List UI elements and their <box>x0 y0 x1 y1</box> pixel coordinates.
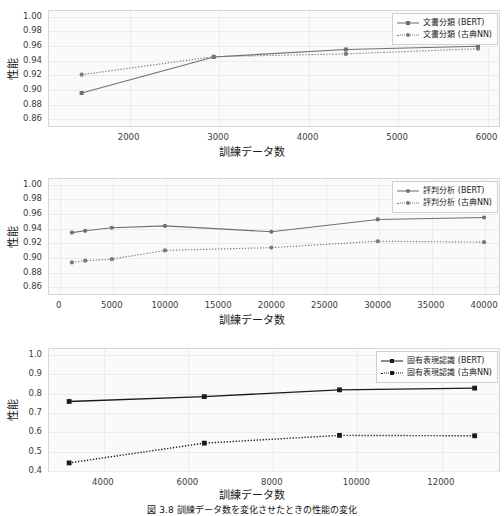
legend-item[interactable]: 固有表現認識 (BERT) <box>381 355 492 367</box>
data-point-marker <box>482 215 486 219</box>
data-point-marker <box>482 240 486 244</box>
data-point-marker <box>269 230 273 234</box>
data-point-marker <box>80 73 84 77</box>
data-point-marker <box>67 399 72 404</box>
series-line <box>69 388 475 401</box>
legend-label: 評判分析 (古典NN) <box>423 197 492 209</box>
chart-panel-doc-classification: 0.860.880.900.920.940.960.981.0020003000… <box>0 0 504 163</box>
chart-legend[interactable]: 固有表現認識 (BERT)固有表現認識 (古典NN) <box>376 351 498 383</box>
legend-item[interactable]: 固有表現認識 (古典NN) <box>381 367 492 379</box>
series-line <box>69 435 475 463</box>
chart-panel-sentiment-analysis: 0.860.880.900.920.940.960.981.0005000100… <box>0 168 504 331</box>
chart-legend[interactable]: 評判分析 (BERT)評判分析 (古典NN) <box>392 181 498 213</box>
data-point-marker <box>110 226 114 230</box>
legend-item[interactable]: 文書分類 (古典NN) <box>397 29 492 41</box>
legend-swatch <box>381 356 403 366</box>
series-line <box>72 217 484 232</box>
data-point-marker <box>472 386 477 391</box>
data-point-marker <box>337 387 342 392</box>
data-point-marker <box>83 259 87 263</box>
series-line <box>72 241 484 262</box>
data-point-marker <box>163 248 167 252</box>
data-point-marker <box>70 231 74 235</box>
data-point-marker <box>163 224 167 228</box>
data-point-marker <box>344 52 348 56</box>
data-point-marker <box>83 229 87 233</box>
legend-swatch <box>397 18 419 28</box>
data-point-marker <box>376 239 380 243</box>
legend-label: 固有表現認識 (BERT) <box>407 355 484 367</box>
data-point-marker <box>344 47 348 51</box>
legend-label: 文書分類 (古典NN) <box>423 29 492 41</box>
chart-legend[interactable]: 文書分類 (BERT)文書分類 (古典NN) <box>392 13 498 45</box>
legend-swatch <box>397 186 419 196</box>
data-point-marker <box>80 91 84 95</box>
legend-item[interactable]: 評判分析 (古典NN) <box>397 197 492 209</box>
data-point-marker <box>110 257 114 261</box>
legend-item[interactable]: 文書分類 (BERT) <box>397 17 492 29</box>
data-point-marker <box>202 441 207 446</box>
data-point-marker <box>212 55 216 59</box>
series-line <box>82 46 478 93</box>
data-point-marker <box>476 47 480 51</box>
data-point-marker <box>70 260 74 264</box>
data-point-marker <box>337 433 342 438</box>
data-point-marker <box>202 394 207 399</box>
legend-swatch <box>397 198 419 208</box>
figure-caption: 図 3.8 訓練データ数を変化させたときの性能の変化 <box>147 503 356 516</box>
legend-item[interactable]: 評判分析 (BERT) <box>397 185 492 197</box>
data-point-marker <box>269 246 273 250</box>
legend-label: 固有表現認識 (古典NN) <box>407 367 492 379</box>
data-point-marker <box>472 433 477 438</box>
chart-panel-named-entity-recognition: 0.40.50.60.70.80.91.04000600080001000012… <box>0 336 504 506</box>
data-point-marker <box>376 217 380 221</box>
data-point-marker <box>67 460 72 465</box>
legend-swatch <box>397 30 419 40</box>
legend-swatch <box>381 368 403 378</box>
legend-label: 文書分類 (BERT) <box>423 17 484 29</box>
legend-label: 評判分析 (BERT) <box>423 185 484 197</box>
